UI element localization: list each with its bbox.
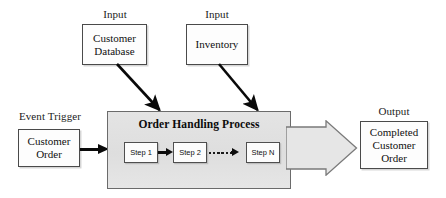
arrow-customer-database-to-process <box>117 64 160 110</box>
arrow-head <box>232 148 239 156</box>
caption-input-left: Input <box>83 8 147 20</box>
step-box-2-label: Step 2 <box>179 148 201 157</box>
step-box-n-label: Step N <box>252 148 275 157</box>
arrow-step1-to-step2 <box>158 150 173 155</box>
step-box-n[interactable]: Step N <box>246 142 280 163</box>
ellipsis-dot <box>217 152 219 154</box>
ellipsis-dot <box>221 152 223 154</box>
caption-output: Output <box>360 105 428 117</box>
input-box-customer-database-label: Customer Database <box>91 32 138 58</box>
step-box-2[interactable]: Step 2 <box>173 142 207 163</box>
step-chain: Step 1 Step 2 Step <box>108 142 290 168</box>
step-box-1-label: Step 1 <box>130 148 152 157</box>
step-ellipsis-dots <box>209 152 232 155</box>
step-box-1[interactable]: Step 1 <box>124 142 158 163</box>
arrow-head <box>166 148 173 156</box>
ellipsis-dot <box>226 152 228 154</box>
trigger-box-customer-order[interactable]: Customer Order <box>18 129 80 167</box>
arrow-customer-order-to-process <box>80 144 109 155</box>
arrow-ellipsis-to-stepn <box>231 150 246 155</box>
output-box-completed-customer-order-label: Completed Customer Order <box>368 126 420 165</box>
caption-event-trigger: Event Trigger <box>13 110 87 122</box>
input-box-inventory[interactable]: Inventory <box>186 24 248 65</box>
arrow-inventory-to-process <box>219 64 258 110</box>
input-box-inventory-label: Inventory <box>194 38 241 51</box>
output-box-completed-customer-order[interactable]: Completed Customer Order <box>360 121 428 169</box>
arrow-shaft <box>80 148 100 151</box>
order-handling-process-container[interactable]: Order Handling Process Step 1 Step 2 <box>107 111 291 189</box>
ellipsis-dot <box>213 152 215 154</box>
output-block-arrow-shape <box>286 121 357 175</box>
process-title: Order Handling Process <box>108 118 290 131</box>
trigger-box-customer-order-label: Customer Order <box>26 135 73 161</box>
output-block-arrow <box>286 120 358 176</box>
process-flow-diagram: Input Customer Database Input Inventory … <box>0 0 446 198</box>
ellipsis-dot <box>209 152 211 154</box>
caption-input-right: Input <box>186 8 248 20</box>
input-box-customer-database[interactable]: Customer Database <box>82 24 147 65</box>
